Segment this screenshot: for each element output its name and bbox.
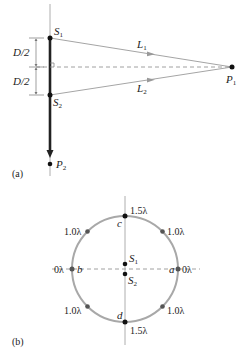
label-P1: P1 bbox=[225, 73, 237, 87]
panel-b-label: (b) bbox=[12, 336, 24, 348]
point-d-dot bbox=[123, 320, 128, 325]
label-S1-b: S1 bbox=[129, 252, 139, 266]
label-half-sep-top: D/2 bbox=[12, 46, 30, 58]
point-lower-right-dot bbox=[160, 304, 165, 309]
source-S2-dot bbox=[48, 93, 53, 98]
panel-b: 1.5λ 1.5λ 0λ 0λ 1.0λ 1.0λ 1.0λ 1.0λ c d … bbox=[12, 196, 200, 348]
arrowhead-icon bbox=[47, 150, 54, 158]
label-b: b bbox=[77, 263, 83, 275]
point-upper-right-dot bbox=[160, 229, 165, 234]
label-d: d bbox=[117, 309, 123, 321]
label-S2-b: S2 bbox=[128, 274, 138, 288]
value-lower-right: 1.0λ bbox=[167, 305, 185, 316]
value-upper-left: 1.0λ bbox=[64, 226, 82, 237]
label-L2: L2 bbox=[136, 82, 147, 96]
source-S1-dot-b bbox=[123, 262, 128, 267]
source-S2-dot-b bbox=[123, 272, 128, 277]
label-half-sep-bottom: D/2 bbox=[12, 75, 30, 87]
value-b: 0λ bbox=[54, 264, 64, 275]
arrow-L2-icon bbox=[147, 78, 155, 83]
source-S1-dot bbox=[48, 36, 53, 41]
panel-a: D/2 D/2 S1 S2 P1 P2 L1 L2 (a) bbox=[12, 4, 237, 180]
value-lower-left: 1.0λ bbox=[64, 305, 82, 316]
value-c: 1.5λ bbox=[130, 205, 148, 216]
value-upper-right: 1.0λ bbox=[167, 226, 185, 237]
arrow-L1-icon bbox=[147, 52, 155, 57]
point-lower-left-dot bbox=[85, 304, 90, 309]
point-b-dot bbox=[70, 267, 75, 272]
value-a: 0λ bbox=[182, 264, 192, 275]
point-a-dot bbox=[176, 267, 181, 272]
label-S1: S1 bbox=[54, 25, 64, 39]
value-d: 1.5λ bbox=[130, 325, 148, 336]
panel-a-label: (a) bbox=[12, 168, 23, 180]
label-L1: L1 bbox=[136, 38, 147, 52]
label-P2: P2 bbox=[55, 158, 67, 172]
point-upper-left-dot bbox=[85, 229, 90, 234]
point-P2-dot bbox=[48, 162, 53, 167]
point-P1-dot bbox=[230, 65, 235, 70]
point-c-dot bbox=[123, 214, 128, 219]
label-S2: S2 bbox=[53, 96, 63, 110]
two-source-interference-figure: D/2 D/2 S1 S2 P1 P2 L1 L2 (a) bbox=[0, 0, 247, 356]
label-c: c bbox=[117, 217, 122, 229]
label-a: a bbox=[169, 263, 175, 275]
